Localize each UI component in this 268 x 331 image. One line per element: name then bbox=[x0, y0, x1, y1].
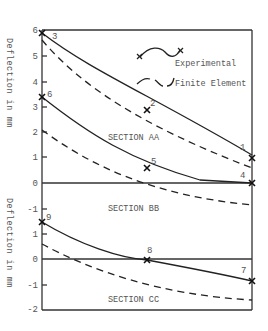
deflection-chart: 0123456-110-1-2 3 2 1 6 5 4 9 8 7 bbox=[0, 0, 268, 331]
y-tick-label: 5 bbox=[33, 52, 38, 62]
y-tick-label: 1 bbox=[33, 153, 38, 163]
y-tick-label: -1 bbox=[27, 205, 38, 215]
y-tick-label: -1 bbox=[27, 281, 38, 291]
legend: Experimental Finite Element bbox=[137, 48, 246, 89]
legend-fe-label: Finite Element bbox=[175, 79, 246, 89]
svg-text:4: 4 bbox=[240, 171, 245, 181]
svg-text:9: 9 bbox=[46, 213, 51, 223]
y-tick-label: 0 bbox=[33, 255, 38, 265]
legend-experimental-label: Experimental bbox=[175, 59, 236, 69]
y-tick-labels: 0123456-110-1-2 bbox=[27, 26, 38, 315]
svg-text:1: 1 bbox=[240, 143, 245, 153]
y-tick-label: 3 bbox=[33, 103, 38, 113]
chart-frame bbox=[42, 30, 252, 310]
y-tick-label: -2 bbox=[27, 305, 38, 315]
svg-text:2: 2 bbox=[150, 99, 155, 109]
svg-text:6: 6 bbox=[47, 90, 52, 100]
section-cc-label: SECTION CC bbox=[108, 295, 159, 305]
section-bb-label: SECTION BB bbox=[108, 204, 159, 214]
svg-text:7: 7 bbox=[241, 266, 246, 276]
legend-experimental-symbol bbox=[137, 48, 183, 59]
legend-fe-symbol bbox=[137, 78, 174, 86]
svg-text:3: 3 bbox=[52, 32, 57, 42]
y-tick-label: 0 bbox=[33, 179, 38, 189]
y-tick-label: 4 bbox=[33, 78, 38, 88]
y-tick-label: 6 bbox=[33, 26, 38, 36]
svg-text:5: 5 bbox=[151, 157, 156, 167]
y-tick-label: 2 bbox=[33, 128, 38, 138]
marker-5 bbox=[144, 165, 150, 171]
section-aa-label: SECTION AA bbox=[108, 133, 160, 143]
y-tick-label: 1 bbox=[33, 230, 38, 240]
svg-text:8: 8 bbox=[147, 246, 152, 256]
